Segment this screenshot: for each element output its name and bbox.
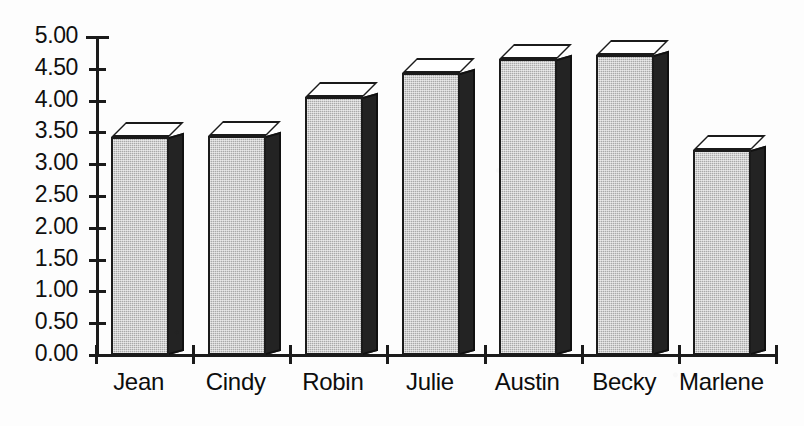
y-axis-tick-label: 5.00 (0, 22, 78, 49)
x-axis-category-label: Austin (479, 368, 576, 396)
y-axis-tick (89, 100, 106, 103)
x-axis-category-label: Marlene (673, 368, 770, 396)
bar-chart: 0.000.501.001.502.002.503.003.504.004.50… (0, 0, 804, 426)
y-axis-tick-label: 3.00 (0, 149, 78, 176)
y-axis-tick (89, 259, 106, 262)
bar-front-face (305, 97, 363, 355)
y-axis-tick-label: 4.00 (0, 86, 78, 113)
x-axis-category-label: Cindy (187, 368, 284, 396)
x-axis-tick (386, 345, 389, 364)
x-axis-tick (192, 345, 195, 364)
bar-side-face (654, 51, 669, 355)
y-axis-tick (89, 227, 106, 230)
bar-side-face (363, 93, 378, 355)
bar-side-face (266, 132, 281, 355)
y-axis-tick-label: 1.00 (0, 276, 78, 303)
y-axis-tick-label: 0.50 (0, 308, 78, 335)
bar-front-face (596, 55, 654, 355)
y-axis-tick (89, 195, 106, 198)
x-axis-tick (289, 345, 292, 364)
bar (208, 136, 266, 355)
bar-front-face (208, 136, 266, 355)
x-axis-tick (95, 345, 98, 364)
y-axis-tick (89, 290, 106, 293)
y-axis-tick-label: 3.50 (0, 117, 78, 144)
bar-side-face (460, 69, 475, 355)
bar-side-face (557, 55, 572, 355)
bar-front-face (402, 73, 460, 355)
y-axis-tick-label: 4.50 (0, 54, 78, 81)
y-axis-tick-label: 0.00 (0, 340, 78, 367)
x-axis-category-label: Jean (90, 368, 187, 396)
bar (499, 59, 557, 355)
bar (402, 73, 460, 355)
bar (305, 97, 363, 355)
y-axis-tick-label: 2.50 (0, 181, 78, 208)
bar-side-face (169, 133, 184, 355)
y-axis-tick (89, 68, 106, 71)
y-axis-tick-label: 2.00 (0, 213, 78, 240)
x-axis-category-label: Robin (284, 368, 381, 396)
y-axis-tick (89, 163, 106, 166)
x-axis-tick (678, 345, 681, 364)
bar-front-face (499, 59, 557, 355)
bar-side-face (751, 146, 766, 355)
bar (111, 137, 169, 355)
y-axis-tick (89, 131, 106, 134)
bar (693, 150, 751, 355)
x-axis-category-label: Becky (576, 368, 673, 396)
bar-front-face (693, 150, 751, 355)
y-axis-tick-label: 1.50 (0, 245, 78, 272)
x-axis-category-label: Julie (381, 368, 478, 396)
bar-front-face (111, 137, 169, 355)
x-axis-tick (484, 345, 487, 364)
x-axis-tick (581, 345, 584, 364)
y-axis-tick (86, 36, 109, 39)
x-axis-tick (775, 345, 778, 364)
y-axis-tick (89, 322, 106, 325)
bar (596, 55, 654, 355)
